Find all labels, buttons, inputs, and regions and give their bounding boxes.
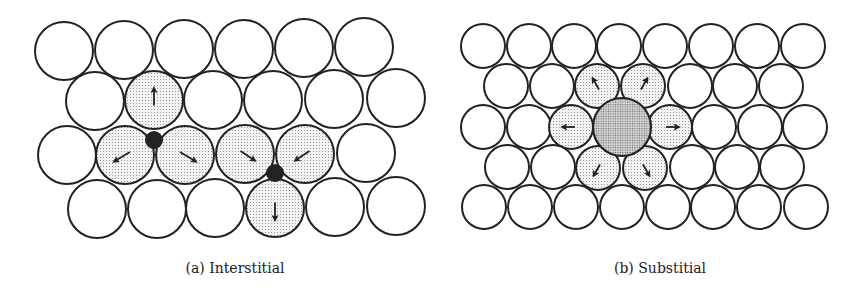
lattice-atom	[760, 145, 804, 189]
lattice-atom	[275, 19, 333, 77]
lattice-atom	[738, 105, 782, 149]
lattice-atom	[715, 145, 759, 189]
lattice-atom	[530, 64, 574, 108]
caption-interstitial: (a) Interstitial	[185, 260, 284, 276]
lattice-atom	[554, 185, 598, 229]
lattice-atom	[38, 126, 96, 184]
lattice-atom	[66, 72, 124, 130]
lattice-atom	[692, 105, 736, 149]
interstitial-atom	[145, 131, 163, 149]
lattice-atom	[337, 124, 395, 182]
lattice-atom	[335, 18, 393, 76]
lattice-atom	[689, 24, 733, 68]
lattice-atom	[643, 24, 687, 68]
substitutional-atom	[593, 98, 651, 156]
lattice-atom	[691, 185, 735, 229]
lattice-atom	[215, 20, 273, 78]
lattice-atom	[784, 185, 828, 229]
defect-diagram	[0, 0, 858, 302]
lattice-atom	[507, 24, 551, 68]
lattice-atom	[306, 178, 364, 236]
lattice-atom	[783, 105, 827, 149]
lattice-atom	[367, 177, 425, 235]
lattice-atom	[95, 21, 153, 79]
lattice-atom	[484, 64, 528, 108]
lattice-atom	[305, 70, 363, 128]
caption-substitial: (b) Substitial	[614, 260, 706, 276]
lattice-atom	[462, 185, 506, 229]
lattice-atom	[713, 64, 757, 108]
lattice-atom	[507, 105, 551, 149]
lattice-atom	[670, 145, 714, 189]
lattice-atom	[244, 71, 302, 129]
lattice-atom	[35, 22, 93, 80]
lattice-atom	[128, 180, 186, 238]
lattice-atom	[461, 105, 505, 149]
panel-substitutional	[461, 24, 828, 229]
lattice-atom	[597, 24, 641, 68]
lattice-atom	[531, 145, 575, 189]
lattice-atom	[735, 24, 779, 68]
lattice-atom	[759, 64, 803, 108]
lattice-atom	[646, 185, 690, 229]
panel-interstitial	[35, 18, 425, 238]
lattice-atom	[155, 20, 213, 78]
lattice-atom	[600, 185, 644, 229]
lattice-atom	[186, 179, 244, 237]
lattice-atom	[668, 64, 712, 108]
interstitial-atom	[266, 164, 284, 182]
lattice-atom	[184, 71, 242, 129]
lattice-atom	[367, 69, 425, 127]
lattice-atom	[485, 145, 529, 189]
lattice-atom	[461, 24, 505, 68]
lattice-atom	[68, 180, 126, 238]
lattice-atom	[552, 24, 596, 68]
lattice-atom	[737, 185, 781, 229]
lattice-atom	[508, 185, 552, 229]
lattice-atom	[781, 24, 825, 68]
